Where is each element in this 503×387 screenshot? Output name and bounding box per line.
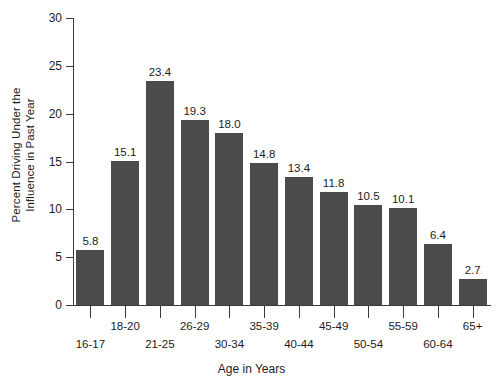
- x-tick-label-21-25: 21-25: [134, 338, 186, 350]
- y-tick-label-30: 30: [38, 12, 62, 24]
- bar-value-label-35-39: 14.8: [241, 148, 288, 160]
- bar-value-label-21-25: 23.4: [137, 66, 184, 78]
- x-tick-label-18-20: 18-20: [99, 320, 151, 332]
- x-tick-65+: [473, 306, 474, 318]
- y-tick-5: [66, 257, 73, 258]
- x-tick-label-50-54: 50-54: [342, 338, 394, 350]
- x-tick-label-45-49: 45-49: [308, 320, 360, 332]
- x-tick-40-44: [299, 306, 300, 318]
- x-tick-16-17: [90, 306, 91, 318]
- x-tick-label-60-64: 60-64: [412, 338, 464, 350]
- y-tick-25: [66, 66, 73, 67]
- y-tick-label-text: 10: [40, 203, 62, 215]
- y-tick-label-5: 5: [38, 251, 62, 263]
- y-tick-20: [66, 114, 73, 115]
- y-tick-label-text: 15: [40, 156, 62, 168]
- bar-18-20: [111, 161, 139, 305]
- x-axis-title: Age in Years: [0, 362, 503, 376]
- x-tick-26-29: [195, 306, 196, 318]
- x-tick-35-39: [264, 306, 265, 318]
- bar-value-label-30-34: 18.0: [206, 118, 253, 130]
- x-tick-30-34: [229, 306, 230, 318]
- y-axis-title-line-2: Influence in Past Year: [23, 88, 37, 223]
- bar-21-25: [146, 81, 174, 305]
- x-tick-label-35-39: 35-39: [238, 320, 290, 332]
- y-tick-0: [66, 305, 73, 306]
- x-tick-55-59: [403, 306, 404, 318]
- x-tick-label-26-29: 26-29: [169, 320, 221, 332]
- bar-value-label-26-29: 19.3: [171, 105, 218, 117]
- x-axis-line: [73, 305, 491, 306]
- plot-area: 5.815.123.419.318.014.813.411.810.510.16…: [73, 18, 490, 305]
- y-tick-label-text: 5: [40, 251, 62, 263]
- y-tick-10: [66, 209, 73, 210]
- x-tick-label-16-17: 16-17: [64, 338, 116, 350]
- bar-value-label-65+: 2.7: [449, 264, 496, 276]
- bar-65+: [459, 279, 487, 305]
- bar-16-17: [76, 250, 104, 305]
- y-tick-30: [66, 18, 73, 19]
- x-tick-label-40-44: 40-44: [273, 338, 325, 350]
- y-tick-label-25: 25: [38, 60, 62, 72]
- y-tick-label-text: 30: [40, 12, 62, 24]
- bar-value-label-55-59: 10.1: [380, 193, 427, 205]
- bar-35-39: [250, 163, 278, 305]
- bar-value-label-40-44: 13.4: [276, 162, 323, 174]
- x-tick-50-54: [368, 306, 369, 318]
- y-tick-label-0: 0: [38, 299, 62, 311]
- bar-value-label-18-20: 15.1: [102, 146, 149, 158]
- bar-50-54: [354, 205, 382, 305]
- bar-40-44: [285, 177, 313, 305]
- bar-45-49: [320, 192, 348, 305]
- y-axis-title-line-1: Percent Driving Under the: [9, 88, 23, 223]
- bar-30-34: [215, 133, 243, 305]
- x-tick-label-55-59: 55-59: [377, 320, 429, 332]
- x-tick-label-30-34: 30-34: [203, 338, 255, 350]
- x-tick-60-64: [438, 306, 439, 318]
- x-tick-45-49: [334, 306, 335, 318]
- x-tick-18-20: [125, 306, 126, 318]
- y-tick-15: [66, 162, 73, 163]
- x-tick-label-65+: 65+: [447, 320, 499, 332]
- x-tick-21-25: [160, 306, 161, 318]
- bar-value-label-16-17: 5.8: [67, 235, 114, 247]
- bar-value-label-60-64: 6.4: [415, 229, 462, 241]
- bar-chart: Percent Driving Under the Influence in P…: [0, 0, 503, 387]
- bar-55-59: [389, 208, 417, 305]
- y-tick-label-text: 0: [40, 299, 62, 311]
- y-tick-label-text: 20: [40, 108, 62, 120]
- bar-60-64: [424, 244, 452, 305]
- bar-26-29: [181, 120, 209, 305]
- y-tick-label-10: 10: [38, 203, 62, 215]
- y-tick-label-15: 15: [38, 156, 62, 168]
- bar-value-label-45-49: 11.8: [310, 177, 357, 189]
- y-tick-label-20: 20: [38, 108, 62, 120]
- y-tick-label-text: 25: [40, 60, 62, 72]
